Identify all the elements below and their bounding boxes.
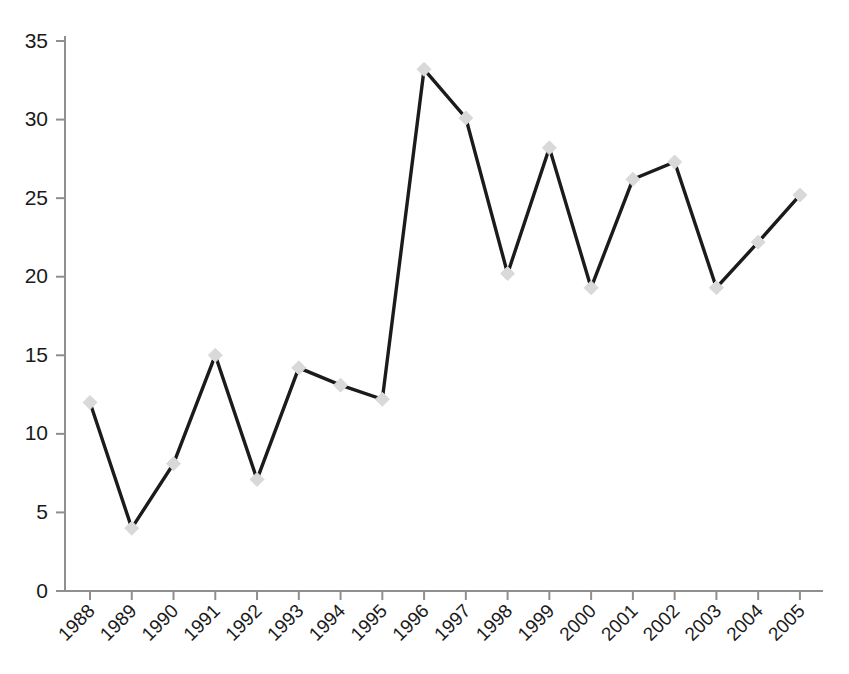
y-tick-label: 15	[25, 343, 48, 366]
x-tick-label: 1997	[430, 600, 475, 645]
data-point-marker	[292, 361, 306, 375]
data-point-marker	[334, 378, 348, 392]
data-point-marker	[584, 281, 598, 295]
data-series-group	[83, 62, 807, 535]
y-axis-group: 05101520253035	[25, 29, 65, 602]
line-chart: 05101520253035 1988198919901991199219931…	[0, 0, 849, 674]
series-1-markers	[83, 62, 807, 535]
data-point-marker	[626, 172, 640, 186]
data-point-marker	[542, 141, 556, 155]
x-tick-label: 1995	[346, 600, 391, 645]
data-point-marker	[250, 472, 264, 486]
chart-plot-area: 05101520253035 1988198919901991199219931…	[0, 0, 849, 674]
x-tick-label: 2005	[764, 600, 809, 645]
x-axis-group: 1988198919901991199219931994199519961997…	[54, 591, 823, 645]
x-tick-label: 1998	[472, 600, 517, 645]
x-tick-label: 1991	[179, 600, 224, 645]
x-tick-label: 1992	[221, 600, 266, 645]
x-tick-label: 1989	[96, 600, 141, 645]
y-tick-label: 25	[25, 186, 48, 209]
x-tick-label: 1988	[54, 600, 99, 645]
x-tick-label: 1993	[263, 600, 308, 645]
x-tick-label: 1999	[513, 600, 558, 645]
y-tick-label: 0	[36, 579, 48, 602]
y-tick-label: 30	[25, 107, 48, 130]
x-tick-label: 1996	[388, 600, 433, 645]
series-1-line	[90, 69, 800, 528]
y-tick-label: 5	[36, 500, 48, 523]
data-point-marker	[501, 267, 515, 281]
x-tick-label: 2003	[680, 600, 725, 645]
data-point-marker	[83, 395, 97, 409]
data-point-marker	[375, 392, 389, 406]
x-tick-label: 2001	[597, 600, 642, 645]
x-tick-group: 1988198919901991199219931994199519961997…	[54, 591, 809, 645]
x-tick-label: 2004	[722, 600, 767, 645]
y-tick-label: 10	[25, 421, 48, 444]
y-tick-group: 05101520253035	[25, 29, 65, 602]
x-tick-label: 1990	[138, 600, 183, 645]
data-point-marker	[208, 348, 222, 362]
y-tick-label: 20	[25, 264, 48, 287]
x-tick-label: 1994	[305, 600, 350, 645]
x-tick-label: 2000	[555, 600, 600, 645]
y-tick-label: 35	[25, 29, 48, 52]
x-tick-label: 2002	[639, 600, 684, 645]
data-point-marker	[668, 155, 682, 169]
